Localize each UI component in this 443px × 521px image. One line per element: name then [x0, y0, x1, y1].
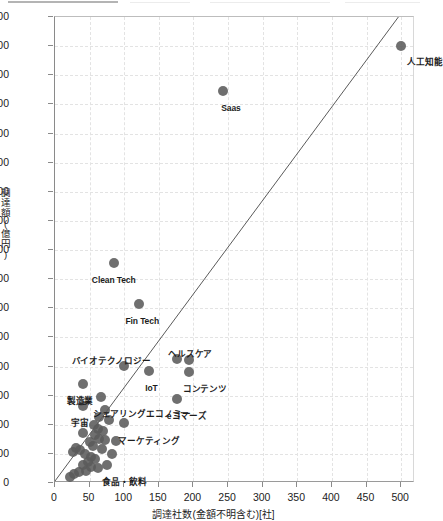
- data-point-label: 人工知能: [407, 58, 443, 67]
- data-point-label: 宇宙: [71, 419, 89, 428]
- data-point-label: ヘルスケア: [168, 350, 213, 359]
- chrome-faint-a: [130, 2, 190, 3]
- y-tick-label: 0: [0, 477, 9, 488]
- y-tick-mark: [48, 307, 53, 308]
- y-tick-mark: [48, 336, 53, 337]
- x-tick-mark: [331, 482, 332, 487]
- data-point-label: eコマーズ: [167, 412, 207, 421]
- y-tick-label: 700: [0, 273, 9, 284]
- x-tick-mark: [158, 482, 159, 487]
- x-tick-mark: [227, 482, 228, 487]
- x-axis-title: 調達社数(金額不明含む)[社]: [0, 506, 427, 521]
- y-tick-mark: [48, 74, 53, 75]
- data-point-label: 製造業: [67, 397, 94, 406]
- y-tick-mark: [48, 278, 53, 279]
- y-tick-label: 1200: [0, 127, 9, 138]
- x-tick-mark: [262, 482, 263, 487]
- chrome-faint-b: [210, 2, 330, 3]
- plot-area: 人工知能SaasClean TechFin Techバイオテクノロジーヘルスケア…: [54, 16, 414, 482]
- y-tick-mark: [48, 453, 53, 454]
- chrome-block: [8, 1, 118, 3]
- y-tick-mark: [48, 249, 53, 250]
- x-tick-mark: [296, 482, 297, 487]
- y-tick-label: 900: [0, 215, 9, 226]
- y-tick-mark: [48, 45, 53, 46]
- data-point-label: コンテンツ: [183, 385, 228, 394]
- x-tick-label: 500: [380, 492, 420, 503]
- chrome-faint-c: [345, 2, 420, 3]
- scatter-chart-figure: 調達額(億円) 調達社数(金額不明含む)[社] 人工知能SaasClean Te…: [0, 6, 427, 521]
- y-tick-label: 500: [0, 331, 9, 342]
- data-point-label: マーケティング: [118, 437, 179, 446]
- y-tick-mark: [48, 366, 53, 367]
- y-tick-mark: [48, 103, 53, 104]
- y-tick-mark: [48, 395, 53, 396]
- y-tick-label: 400: [0, 360, 9, 371]
- data-point-label: Clean Tech: [92, 276, 136, 285]
- y-tick-label: 1000: [0, 186, 9, 197]
- y-tick-mark: [48, 424, 53, 425]
- x-tick-mark: [54, 482, 55, 487]
- data-point-label: Saas: [221, 104, 240, 113]
- y-tick-mark: [48, 133, 53, 134]
- y-tick-label: 800: [0, 244, 9, 255]
- x-tick-mark: [400, 482, 401, 487]
- y-tick-label: 1500: [0, 40, 9, 51]
- data-point-label: IoT: [145, 384, 157, 393]
- y-tick-label: 1400: [0, 69, 9, 80]
- data-point-label: Fin Tech: [125, 317, 159, 326]
- y-tick-label: 600: [0, 302, 9, 313]
- y-tick-mark: [48, 16, 53, 17]
- x-tick-mark: [366, 482, 367, 487]
- y-tick-mark: [48, 191, 53, 192]
- y-tick-label: 1300: [0, 98, 9, 109]
- y-tick-label: 100: [0, 448, 9, 459]
- x-tick-mark: [192, 482, 193, 487]
- y-tick-mark: [48, 162, 53, 163]
- y-tick-label: 1100: [0, 156, 9, 167]
- x-tick-mark: [123, 482, 124, 487]
- y-tick-label: 1600: [0, 11, 9, 22]
- y-tick-label: 300: [0, 389, 9, 400]
- y-tick-label: 200: [0, 419, 9, 430]
- y-tick-mark: [48, 220, 53, 221]
- point-labels: 人工知能SaasClean TechFin Techバイオテクノロジーヘルスケア…: [55, 17, 413, 481]
- x-tick-mark: [89, 482, 90, 487]
- y-tick-mark: [48, 482, 53, 483]
- data-point-label: バイオテクノロジー: [72, 357, 151, 366]
